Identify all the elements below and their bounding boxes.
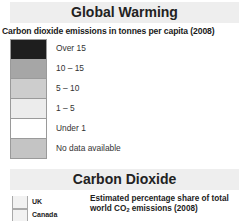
- legend-label: Over 15: [56, 43, 86, 53]
- legend-swatch: [10, 39, 47, 60]
- legend-label: Under 1: [56, 123, 86, 133]
- co2-description-line1: Estimated percentage share of total: [90, 194, 235, 204]
- co2-legend-swatch: [12, 196, 28, 209]
- legend-label: No data available: [56, 143, 121, 153]
- co2-legend-label: UK: [32, 198, 42, 205]
- carbon-dioxide-title: Carbon Dioxide: [10, 169, 239, 190]
- legend-swatch: [10, 139, 47, 159]
- legend-label: 10 – 15: [56, 63, 84, 73]
- co2-legend-swatch: [12, 209, 28, 221]
- global-warming-title: Global Warming: [10, 2, 239, 23]
- legend-label: 5 – 10: [56, 83, 79, 93]
- legend-label: 1 – 5: [56, 103, 75, 113]
- legend-swatch: [10, 119, 47, 139]
- legend-swatch: [10, 59, 47, 79]
- co2-suffix: emissions (2008): [129, 204, 197, 213]
- co2-description: Estimated percentage share of total worl…: [90, 194, 235, 215]
- co2-text: world CO: [90, 204, 126, 213]
- emissions-subtitle: Carbon dioxide emissions in tonnes per c…: [2, 26, 215, 36]
- legend-swatch: [10, 79, 47, 99]
- co2-description-line2: world CO2 emissions (2008): [90, 204, 235, 215]
- co2-legend-label: Canada: [32, 211, 57, 218]
- legend-swatch: [10, 99, 47, 119]
